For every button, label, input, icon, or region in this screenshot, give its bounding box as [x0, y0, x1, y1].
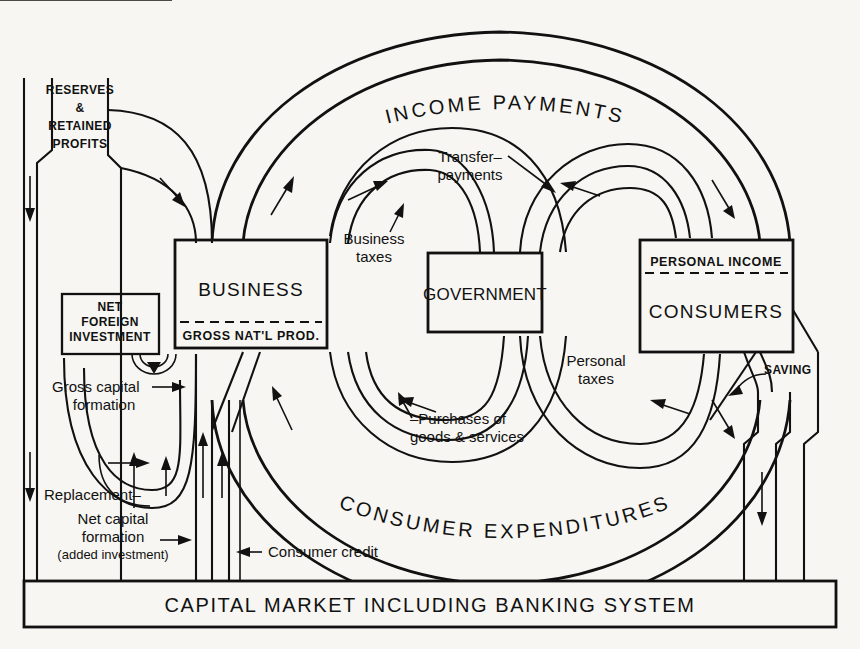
nfi-line1: NET: [97, 300, 122, 314]
economic-flow-diagram: BUSINESS GROSS NAT'L PROD. GOVERNMENT PE…: [0, 0, 860, 649]
personal-income-label: PERSONAL INCOME: [650, 255, 782, 269]
net-capital-formation-l3: (added investment): [57, 547, 168, 562]
capital-market-label: CAPITAL MARKET INCLUDING BANKING SYSTEM: [164, 594, 695, 616]
diagram-canvas: BUSINESS GROSS NAT'L PROD. GOVERNMENT PE…: [0, 0, 860, 649]
income-payments-label: INCOME PAYMENTS: [383, 91, 627, 128]
personal-taxes-l2: taxes: [578, 370, 614, 387]
purchases-l1: –Purchases of: [410, 410, 507, 427]
reserves-line3: RETAINED: [48, 119, 112, 133]
consumer-credit-label: Consumer credit: [268, 543, 379, 560]
transfer-payments-l2: payments: [437, 166, 502, 183]
consumers-label: CONSUMERS: [649, 301, 783, 322]
reserves-line2: &: [75, 101, 84, 115]
purchases-goods-services-label: –Purchases of goods & services: [398, 392, 524, 445]
net-capital-formation-l1: Net capital: [78, 510, 149, 527]
transfer-payments-l1: Transfer–: [438, 148, 502, 165]
net-foreign-investment-box[interactable]: NET FOREIGN INVESTMENT: [62, 294, 159, 354]
net-capital-formation-l2: formation: [82, 528, 145, 545]
business-sub-label: GROSS NAT'L PROD.: [182, 329, 319, 343]
replacement-label: Replacement–: [44, 486, 141, 503]
business-taxes-label: Business taxes: [344, 203, 405, 265]
gross-capital-formation-l1: Gross capital: [52, 378, 140, 395]
business-label: BUSINESS: [198, 279, 304, 300]
purchases-l2: goods & services: [410, 428, 524, 445]
business-taxes-l1: Business: [344, 230, 405, 247]
transfer-payments-label: Transfer– payments: [437, 148, 556, 193]
gross-capital-formation-l2: formation: [73, 396, 136, 413]
personal-taxes-label: Personal taxes: [566, 352, 625, 387]
nfi-line3: INVESTMENT: [69, 330, 151, 344]
personal-taxes-l1: Personal: [566, 352, 625, 369]
capital-market-box[interactable]: CAPITAL MARKET INCLUDING BANKING SYSTEM: [24, 581, 836, 627]
consumer-expenditures-label: CONSUMER EXPENDITURES: [337, 491, 674, 543]
capital-formation-loops: Gross capital formation Replacement–: [44, 354, 227, 508]
saving-label: SAVING: [764, 363, 812, 377]
government-label: GOVERNMENT: [423, 285, 547, 304]
reserves-line4: PROFITS: [53, 137, 108, 151]
reserves-line1: RESERVES: [46, 83, 114, 97]
nfi-line2: FOREIGN: [81, 315, 138, 329]
business-box[interactable]: BUSINESS GROSS NAT'L PROD.: [175, 240, 327, 348]
business-taxes-l2: taxes: [356, 248, 392, 265]
government-box[interactable]: GOVERNMENT: [423, 253, 547, 332]
consumers-box[interactable]: PERSONAL INCOME CONSUMERS: [640, 240, 793, 352]
